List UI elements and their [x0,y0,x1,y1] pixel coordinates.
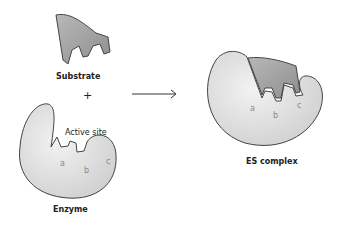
complex-site-a: a [250,104,255,113]
complex-site-c: c [297,101,301,110]
substrate-shape [56,14,110,64]
enzyme-site-a: a [60,159,65,168]
enzyme-shape [19,104,116,198]
complex-site-b: b [273,111,278,120]
substrate-label: Substrate [56,72,100,81]
diagram-canvas [0,0,341,228]
enzyme-site-c: c [106,157,110,166]
active-site-label: Active site [65,128,107,137]
enzyme-site-b: b [84,166,89,175]
es-complex-label: ES complex [246,157,298,166]
enzyme-label: Enzyme [53,205,88,214]
plus-sign: + [83,89,92,102]
